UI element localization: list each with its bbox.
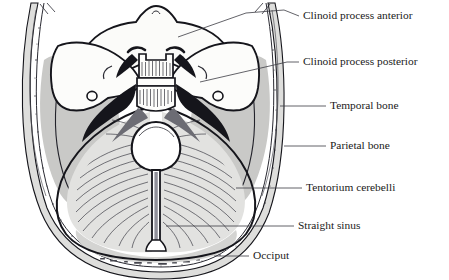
label-straight-sinus: Straight sinus bbox=[298, 219, 361, 231]
tentorial-incisure bbox=[132, 122, 181, 171]
label-tentorium-cerebelli: Tentorium cerebelli bbox=[306, 181, 395, 193]
posterior-clinoid-shelf bbox=[137, 78, 175, 86]
cranial-base-diagram: Clinoid process anterior Clinoid process… bbox=[0, 0, 449, 280]
clivus bbox=[137, 86, 175, 111]
straight-sinus-lumen bbox=[154, 172, 157, 245]
label-parietal-bone: Parietal bone bbox=[330, 139, 390, 151]
foramen-ovale-right bbox=[213, 91, 223, 100]
label-clinoid-process-anterior: Clinoid process anterior bbox=[303, 9, 413, 21]
anatomy-figure: Clinoid process anterior Clinoid process… bbox=[0, 0, 449, 280]
foramen-ovale-left bbox=[87, 91, 97, 100]
label-clinoid-process-posterior: Clinoid process posterior bbox=[303, 55, 418, 67]
foramen-magnum-opening bbox=[132, 122, 181, 171]
label-temporal-bone: Temporal bone bbox=[330, 99, 398, 111]
label-occiput: Occiput bbox=[253, 249, 290, 261]
